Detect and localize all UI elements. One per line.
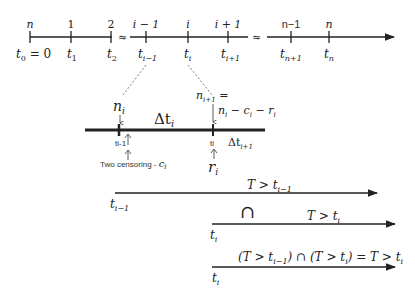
- tick-top-label: i − 1: [133, 18, 160, 31]
- n-next-label: ni+1 =: [196, 89, 228, 104]
- tick-top-label: n: [26, 18, 33, 31]
- event-label-1: T > ti−1: [247, 178, 292, 194]
- n-next-formula: ni − ci − ri: [218, 104, 276, 119]
- interval-detail: ni Δti ni+1 = ni − ci − ri ti-1 Two cens…: [85, 89, 276, 177]
- tick-bottom-label: t0 = 0: [16, 47, 51, 63]
- event-row-3: (T > ti−1) ∩ (T > ti) = T > ti ti: [212, 250, 404, 287]
- zoom-guide-left: [123, 65, 146, 95]
- tick-right-label: ti: [210, 139, 214, 148]
- tick-top-label: 1: [68, 18, 75, 31]
- event-label-2: T > ti: [307, 209, 341, 225]
- tick-bottom-label: t2: [107, 47, 117, 63]
- censoring-label: Two censoring - ci: [100, 158, 167, 171]
- event-label-3: (T > ti−1) ∩ (T > ti) = T > ti: [238, 250, 404, 266]
- main-timeline: ≈ ≈ n 1 2 i − 1 i i + 1 n−1 n t0 = 0 t1 …: [16, 18, 394, 63]
- n-i-label: ni: [113, 98, 125, 116]
- tick-bottom-label: t1: [67, 47, 77, 63]
- tick-top-label: i: [186, 18, 190, 31]
- event-start-3: ti: [212, 271, 220, 287]
- tick-top-label: n: [325, 18, 332, 31]
- survival-timeline-diagram: ≈ ≈ n 1 2 i − 1 i i + 1 n−1 n t0 = 0 t1 …: [0, 0, 415, 299]
- tick-bottom-label: tn+1: [280, 47, 302, 63]
- event-start-2: ti: [210, 228, 218, 244]
- delta-t-next-label: Δti+1: [228, 136, 253, 151]
- tick-left-label: ti-1: [115, 139, 127, 148]
- break-symbol-1: ≈: [118, 31, 127, 44]
- delta-t-i-label: Δti: [154, 110, 174, 129]
- break-symbol-2: ≈: [252, 31, 261, 44]
- event-row-2: T > ti ti: [210, 209, 395, 244]
- tick-bottom-label: ti+1: [221, 47, 240, 63]
- tick-bottom-label: ti−1: [138, 47, 157, 63]
- tick-bottom-label: ti: [184, 47, 192, 63]
- tick-top-label: 2: [108, 18, 115, 31]
- tick-top-label: i + 1: [215, 18, 242, 31]
- intersection-symbol: ∩: [240, 201, 255, 222]
- tick-bottom-label: tn: [324, 47, 334, 63]
- tick-top-label: n−1: [282, 18, 301, 30]
- event-start-1: ti−1: [110, 197, 129, 213]
- r-i-label: ri: [208, 158, 218, 177]
